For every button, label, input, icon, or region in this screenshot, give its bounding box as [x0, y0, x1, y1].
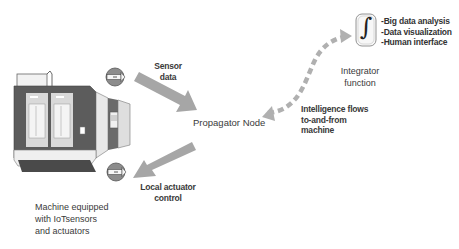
integrator-label-line: function: [330, 77, 390, 89]
intelligence-line: to-and-from: [301, 115, 368, 126]
integrator-label-line: Integrator: [330, 65, 390, 77]
sensor-data-label: Sensor data: [150, 61, 186, 82]
feature-item: -Data visualization: [381, 27, 452, 38]
machine-label: Machine equipped with IoTsensors and act…: [35, 201, 109, 237]
local-actuator-line: Local actuator: [138, 182, 198, 193]
machine-illustration: [14, 71, 130, 172]
feature-item: -Big data analysis: [381, 16, 452, 27]
integral-symbol: ∫: [357, 13, 375, 41]
integrator-feature-list: -Big data analysis -Data visualization -…: [381, 16, 452, 48]
local-actuator-arrow: [133, 142, 196, 178]
intelligence-flow-label: Intelligence flows to-and-from machine: [301, 104, 368, 136]
propagator-node-label: Propagator Node: [193, 118, 265, 129]
machine-label-line: Machine equipped: [35, 201, 109, 213]
machine-label-line: with IoTsensors: [35, 213, 109, 225]
sensor-arrow-icon: [106, 68, 125, 86]
machine-label-line: and actuators: [35, 225, 109, 237]
actuator-arrow-icon: [107, 163, 126, 181]
sensor-data-line: data: [150, 72, 186, 83]
intelligence-line: machine: [301, 125, 368, 136]
feature-item: -Human interface: [381, 37, 452, 48]
intelligence-line: Intelligence flows: [301, 104, 368, 115]
local-actuator-line: control: [138, 193, 198, 204]
local-actuator-label: Local actuator control: [138, 182, 198, 203]
sensor-data-line: Sensor: [150, 61, 186, 72]
integrator-label: Integrator function: [330, 65, 390, 89]
